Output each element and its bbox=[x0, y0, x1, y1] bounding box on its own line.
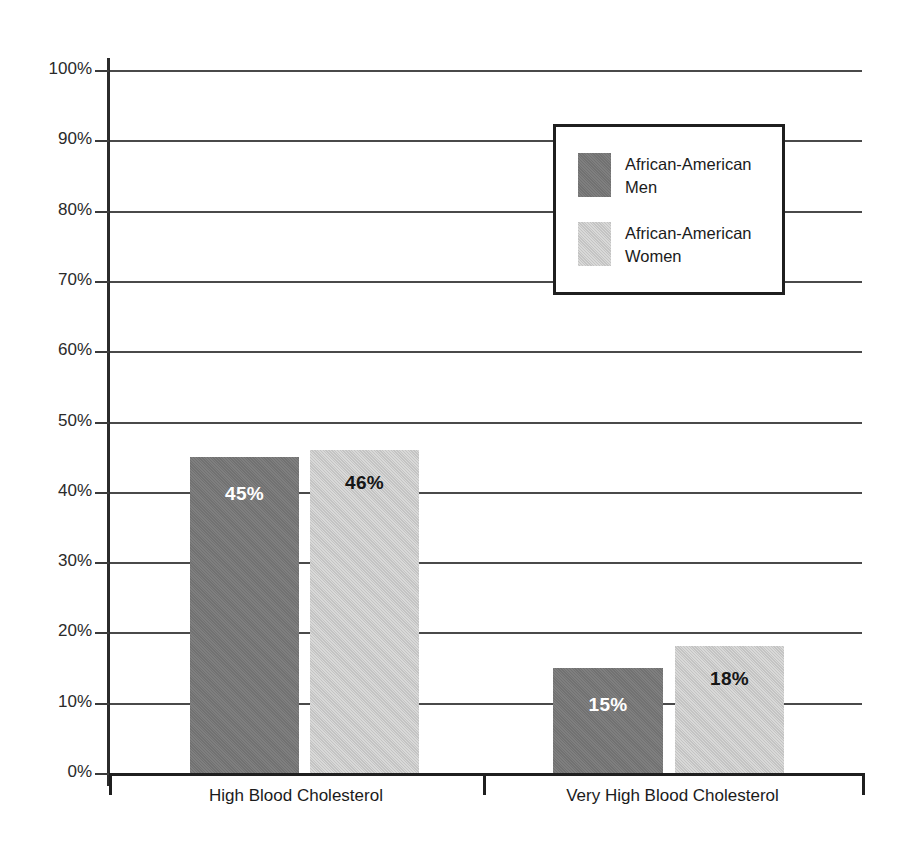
y-tick-mark-100 bbox=[95, 70, 109, 72]
y-axis-label-60: 60% bbox=[0, 340, 92, 360]
legend-item-african-american-women: African-American Women bbox=[578, 222, 775, 269]
legend-item-african-american-men: African-American Men bbox=[578, 153, 775, 200]
bar-1-1: 18% bbox=[675, 646, 784, 773]
bar-chart: 100%90%80%70%60%50%40%30%20%10%0% 45%46%… bbox=[0, 0, 907, 846]
bar-0-1: 46% bbox=[310, 450, 419, 773]
y-axis-label-30: 30% bbox=[0, 551, 92, 571]
y-tick-mark-50 bbox=[95, 422, 109, 424]
y-axis-label-0: 0% bbox=[0, 762, 92, 782]
y-axis-label-40: 40% bbox=[0, 481, 92, 501]
y-tick-mark-0 bbox=[95, 773, 109, 775]
chart-legend: African-American Men African-American Wo… bbox=[553, 124, 785, 295]
legend-label-men: African-American Men bbox=[625, 153, 775, 200]
y-axis-label-90: 90% bbox=[0, 129, 92, 149]
x-axis-tick-2 bbox=[862, 773, 865, 795]
y-tick-mark-40 bbox=[95, 492, 109, 494]
y-tick-mark-80 bbox=[95, 211, 109, 213]
y-axis-label-50: 50% bbox=[0, 411, 92, 431]
y-tick-mark-90 bbox=[95, 140, 109, 142]
y-tick-mark-70 bbox=[95, 281, 109, 283]
y-axis-label-10: 10% bbox=[0, 692, 92, 712]
y-axis-label-20: 20% bbox=[0, 621, 92, 641]
bar-0-0: 45% bbox=[190, 457, 299, 773]
bar-1-0: 15% bbox=[553, 668, 663, 773]
bar-value-label: 15% bbox=[553, 694, 663, 716]
y-axis-label-70: 70% bbox=[0, 270, 92, 290]
y-tick-mark-30 bbox=[95, 562, 109, 564]
gridline-50 bbox=[109, 422, 862, 424]
gridline-100 bbox=[109, 70, 862, 72]
bar-value-label: 46% bbox=[310, 472, 419, 494]
y-tick-mark-10 bbox=[95, 703, 109, 705]
bar-value-label: 18% bbox=[675, 668, 784, 690]
legend-swatch-icon-women bbox=[578, 222, 611, 266]
gridline-60 bbox=[109, 351, 862, 353]
x-axis-category-label-1: Very High Blood Cholesterol bbox=[483, 786, 862, 806]
y-tick-mark-20 bbox=[95, 632, 109, 634]
x-axis-category-label-0: High Blood Cholesterol bbox=[109, 786, 483, 806]
legend-label-women: African-American Women bbox=[625, 222, 775, 269]
y-axis-label-100: 100% bbox=[0, 59, 92, 79]
bar-value-label: 45% bbox=[190, 483, 299, 505]
y-tick-mark-60 bbox=[95, 351, 109, 353]
legend-swatch-icon-men bbox=[578, 153, 611, 197]
y-axis-label-80: 80% bbox=[0, 200, 92, 220]
